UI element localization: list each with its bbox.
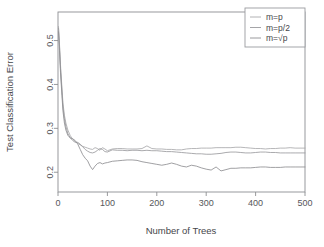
y-tick-label: 0.3 bbox=[45, 122, 55, 135]
x-tick-label: 400 bbox=[248, 198, 263, 208]
chart-legend: m=pm=p/2m=√p bbox=[245, 8, 305, 47]
legend-label: m=√p bbox=[266, 33, 288, 43]
x-axis-ticks: 0100200300400500 bbox=[55, 192, 312, 208]
x-tick-label: 100 bbox=[100, 198, 115, 208]
x-tick-label: 0 bbox=[55, 198, 60, 208]
series-lines bbox=[58, 26, 305, 170]
test-classification-error-chart: 0.20.30.40.5 0100200300400500 Number of … bbox=[0, 0, 324, 247]
legend-label: m=p bbox=[266, 12, 283, 22]
y-tick-label: 0.2 bbox=[45, 166, 55, 179]
y-tick-label: 0.5 bbox=[45, 34, 55, 47]
y-axis-title: Test Classification Error bbox=[4, 52, 15, 152]
y-axis-ticks: 0.20.30.40.5 bbox=[45, 34, 58, 178]
x-tick-label: 500 bbox=[297, 198, 312, 208]
x-tick-label: 300 bbox=[199, 198, 214, 208]
x-tick-label: 200 bbox=[149, 198, 164, 208]
chart-figure: 0.20.30.40.5 0100200300400500 Number of … bbox=[0, 0, 324, 247]
y-tick-label: 0.4 bbox=[45, 78, 55, 91]
x-axis-title: Number of Trees bbox=[146, 225, 217, 236]
legend-label: m=p/2 bbox=[266, 23, 290, 33]
